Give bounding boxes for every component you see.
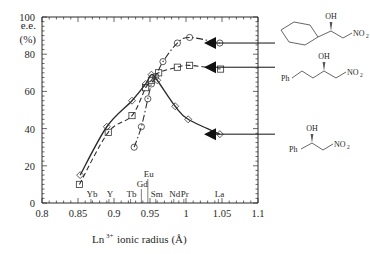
y-axis-label-unit: (%)	[20, 33, 37, 46]
element-markers: YbYTbGdEuSmNdPrLa	[86, 169, 224, 203]
y-tick-label: 60	[25, 86, 36, 97]
structure-3-oh-label: OH	[306, 124, 318, 133]
structure-3-no2-subscript: 2	[347, 144, 350, 150]
x-tick-label: 1.1	[251, 208, 264, 219]
arrow-to-cyclohexyl-series	[204, 37, 275, 49]
annotation-arrows	[204, 37, 275, 140]
series-line	[134, 37, 220, 147]
structure-2-oh-label: OH	[318, 52, 330, 61]
x-tick-labels: 0.80.850.90.9511.051.1	[35, 208, 264, 219]
y-tick-label: 20	[25, 161, 36, 172]
element-marker-label: Eu	[144, 169, 154, 179]
data-point-marker	[174, 64, 180, 70]
structure-2-no2-label: NO	[347, 68, 359, 77]
wedge-oh-bond-1	[330, 22, 333, 31]
chart-canvas: 0.80.850.90.9511.051.1 020406080100 YbYT…	[0, 0, 370, 254]
element-marker-label: Gd	[137, 179, 148, 189]
y-axis-label-main: e.e.	[21, 19, 37, 31]
wedge-oh-bond-2	[323, 62, 326, 71]
structure-2-no2-subscript: 2	[360, 72, 363, 78]
y-tick-label: 0	[30, 198, 35, 209]
arrow-to-phenyl-series	[204, 128, 275, 140]
element-marker-label: Yb	[86, 189, 97, 199]
structure-1-no2-subscript: 2	[366, 33, 369, 39]
x-tick-label: 0.95	[141, 208, 159, 219]
x-axis-title-rest: ionic radius (Å)	[117, 233, 187, 246]
x-tick-label: 0.85	[69, 208, 87, 219]
structure-phenylpropyl-nitroaldol: Ph OH NO 2	[281, 52, 363, 83]
series-phenyl-nitroaldol	[77, 71, 224, 178]
x-tick-label: 0.8	[35, 208, 48, 219]
element-marker-label: La	[215, 189, 225, 199]
element-marker-label: Nd	[169, 189, 180, 199]
structure-cyclohexyl-nitroaldol: OH NO 2	[281, 12, 369, 45]
x-tick-label: 1.05	[213, 208, 231, 219]
data-series	[76, 34, 223, 187]
y-tick-label: 80	[25, 49, 36, 60]
element-marker-label: Pr	[181, 189, 189, 199]
x-axis-title: Ln 3+ ionic radius (Å)	[92, 232, 187, 246]
element-marker-label: Tb	[127, 189, 137, 199]
x-tick-label: 0.9	[107, 208, 120, 219]
y-tick-label: 40	[25, 124, 36, 135]
x-tick-label: 1	[183, 208, 188, 219]
structure-1-no2-label: NO	[353, 29, 365, 38]
chart-figure: 0.80.850.90.9511.051.1 020406080100 YbYT…	[0, 0, 370, 254]
data-point-marker	[76, 181, 82, 187]
wedge-oh-bond-3	[311, 134, 314, 143]
structure-3-no2-label: NO	[334, 140, 346, 149]
structure-phenyl-nitroaldol: Ph OH NO 2	[289, 124, 350, 154]
structure-3-ph-label: Ph	[289, 145, 297, 154]
structure-2-ph-label: Ph	[281, 74, 289, 83]
data-point-marker	[138, 124, 144, 130]
arrow-to-phenylpropyl-series	[204, 61, 275, 73]
structure-1-oh-label: OH	[325, 12, 337, 21]
x-axis-title-superscript: 3+	[106, 232, 114, 240]
x-axis-title-base: Ln	[92, 233, 105, 245]
element-marker-label: Sm	[151, 189, 163, 199]
element-marker-label: Y	[107, 189, 114, 199]
